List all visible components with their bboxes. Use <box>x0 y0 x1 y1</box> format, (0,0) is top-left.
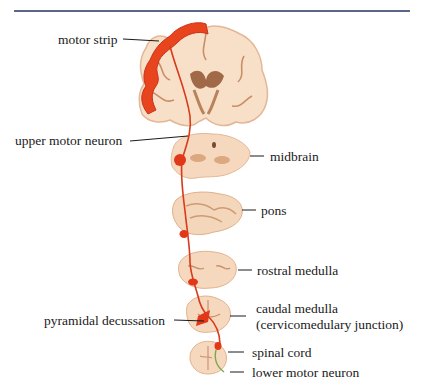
rostral-medulla-section <box>179 251 237 288</box>
label-upper-motor-neuron: upper motor neuron <box>15 133 122 148</box>
cerebrum-section <box>139 23 267 126</box>
diagram: motor strip upper motor neuron midbrain … <box>0 0 424 390</box>
label-pyramidal-decussation: pyramidal decussation <box>44 313 165 328</box>
label-motor-strip: motor strip <box>58 32 118 47</box>
label-spinal-cord: spinal cord <box>252 345 312 360</box>
label-cervicomedullary-junction: (cervicomedulary junction) <box>256 317 403 332</box>
spinal-tract-spot <box>215 342 222 350</box>
medulla-pyramid-spot <box>188 279 198 286</box>
label-lower-motor-neuron: lower motor neuron <box>252 365 359 380</box>
pons-tract-spot <box>180 230 189 238</box>
label-rostral-medulla: rostral medulla <box>257 263 338 278</box>
label-midbrain: midbrain <box>270 149 319 164</box>
label-pons: pons <box>261 203 287 218</box>
midbrain-tract-spot <box>174 154 186 166</box>
label-caudal-medulla: caudal medulla <box>256 301 338 316</box>
